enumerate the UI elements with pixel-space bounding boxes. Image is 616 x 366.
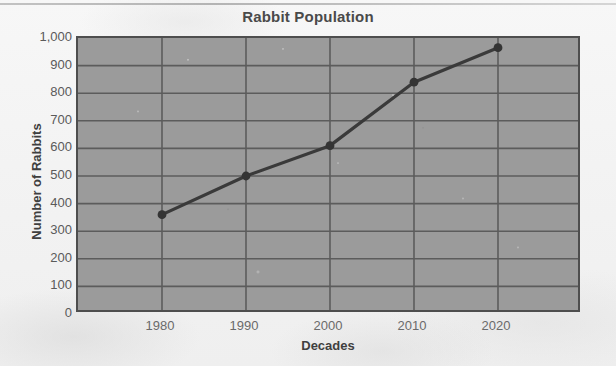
x-axis-title: Decades (76, 338, 580, 353)
data-point-marker (494, 43, 503, 52)
x-axis-tick-label: 2010 (377, 318, 447, 333)
y-axis-tick-label: 700 (2, 111, 72, 126)
data-point-marker (326, 141, 335, 150)
y-axis-tick-label: 900 (2, 56, 72, 71)
gridlines (78, 38, 580, 312)
data-point-marker (410, 78, 419, 87)
y-axis-tick-label: 400 (2, 194, 72, 209)
plot-area (76, 36, 580, 312)
x-axis-tick-label: 1990 (209, 318, 279, 333)
plot-svg (78, 38, 580, 312)
chart-title: Rabbit Population (0, 8, 616, 25)
data-point-marker (158, 210, 167, 219)
page-top-rule (0, 3, 616, 5)
y-axis-tick-label: 800 (2, 84, 72, 99)
y-axis-tick-label: 500 (2, 167, 72, 182)
y-axis-tick-labels: 01002003004005006007008009001,000 (0, 36, 72, 312)
x-axis-tick-label: 1980 (125, 318, 195, 333)
x-axis-tick-label: 2000 (293, 318, 363, 333)
x-axis-tick-labels: 19801990200020102020 (76, 318, 580, 338)
y-axis-tick-label: 600 (2, 139, 72, 154)
y-axis-tick-label: 100 (2, 277, 72, 292)
y-axis-tick-label: 200 (2, 249, 72, 264)
y-axis-tick-label: 1,000 (2, 29, 72, 44)
y-axis-tick-label: 0 (2, 305, 72, 320)
x-axis-tick-label: 2020 (461, 318, 531, 333)
data-point-marker (242, 172, 251, 181)
y-axis-tick-label: 300 (2, 222, 72, 237)
